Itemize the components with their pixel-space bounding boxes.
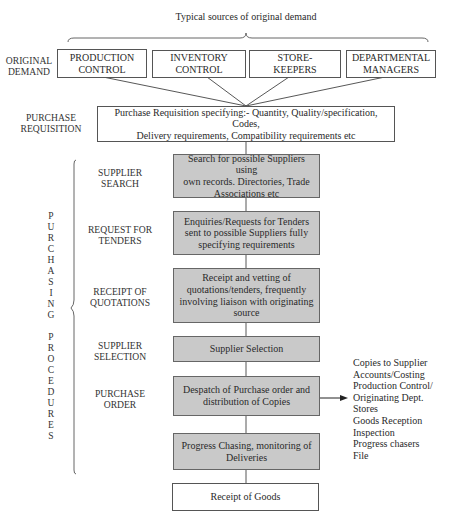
list-item: Stores (353, 403, 452, 415)
purchase-requisition-box: Purchase Requisition specifying:- Quanti… (97, 106, 395, 142)
process-request-for-tenders: Enquiries/Requests for Tenderssent to po… (173, 211, 320, 255)
source-inventory-control: INVENTORYCONTROL (152, 50, 246, 78)
list-item: Progress chasers (353, 438, 452, 450)
arrow-right-icon (340, 395, 348, 401)
process-progress-chasing: Progress Chasing, monitoring ofDeliverie… (173, 433, 320, 470)
label-original-demand: ORIGINAL DEMAND (3, 55, 55, 77)
source-departmental-managers: DEPARTMENTALMANAGERS (346, 50, 436, 78)
procedures-brace (71, 160, 76, 474)
label-purchase-requisition: PURCHASE REQUISITION (20, 112, 82, 134)
process-receipt-of-quotations: Receipt and vetting ofquotations/tenders… (173, 268, 320, 323)
sources-caption: Typical sources of original demand (0, 11, 452, 23)
source-production-control: PRODUCTIONCONTROL (57, 49, 147, 78)
label-supplier-selection: SUPPLIER SELECTION (85, 340, 155, 362)
process-receipt-of-goods: Receipt of Goods (172, 483, 319, 511)
label-request-for-tenders: REQUEST FOR TENDERS (82, 224, 158, 246)
sources-brace (68, 33, 428, 42)
label-receipt-of-quotations: RECEIPT OF QUOTATIONS (85, 286, 155, 308)
process-purchase-order: Despatch of Purchase order anddistributi… (173, 376, 320, 416)
list-item: Goods Reception (353, 415, 452, 427)
purchasing-procedures-label: P U R C H A S I N G P R O C E D U R E S (45, 211, 57, 442)
list-item: File (353, 450, 452, 462)
copies-distribution-list: Copies to Supplier Accounts/Costing Prod… (353, 357, 452, 461)
list-item: Production Control/ (353, 380, 452, 392)
list-item: Inspection (353, 427, 452, 439)
process-supplier-selection: Supplier Selection (173, 336, 320, 362)
source-store-keepers: STORE-KEEPERS (249, 50, 341, 78)
list-item: Originating Dept. (353, 392, 452, 404)
label-purchase-order: PURCHASE ORDER (85, 388, 155, 410)
list-item: Copies to Supplier (353, 357, 452, 369)
label-supplier-search: SUPPLIER SEARCH (85, 167, 155, 189)
list-item: Accounts/Costing (353, 369, 452, 381)
process-supplier-search: Search for possible Suppliers usingown r… (173, 154, 320, 198)
